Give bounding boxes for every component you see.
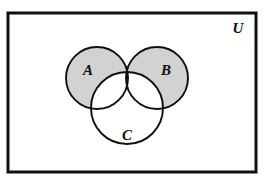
set-label-b: B xyxy=(160,62,171,78)
universal-set-label: U xyxy=(233,20,245,36)
venn-diagram-figure: A B C U xyxy=(0,0,271,187)
venn-diagram-canvas: A B C U xyxy=(0,0,271,187)
set-label-c: C xyxy=(122,127,133,143)
set-label-a: A xyxy=(82,62,93,78)
